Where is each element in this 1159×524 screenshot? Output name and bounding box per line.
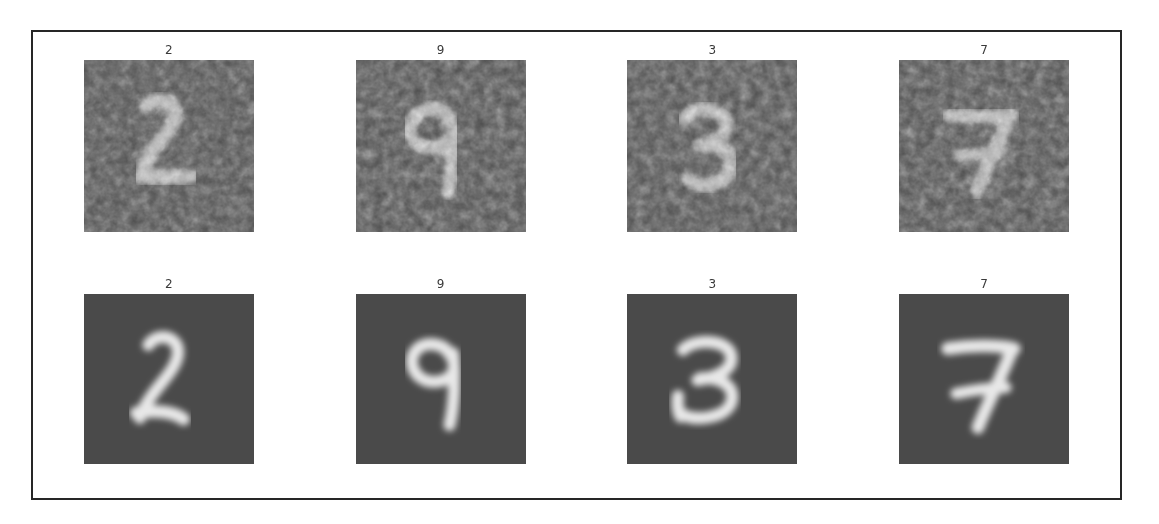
figure-panel: 2 — [31, 30, 1122, 500]
clean-digit-image-7[interactable] — [899, 294, 1069, 464]
noisy-digit-image-7[interactable] — [899, 60, 1069, 232]
noisy-digit-image-2[interactable] — [84, 60, 254, 232]
clean-row: 2 — [33, 265, 1120, 498]
clean-digit-image-2[interactable] — [84, 294, 254, 464]
cell-noisy-2[interactable]: 9 — [305, 32, 577, 232]
subplot-title: 9 — [437, 43, 445, 57]
cell-noisy-4[interactable]: 7 — [848, 32, 1120, 232]
image-grid: 2 — [33, 32, 1120, 498]
subplot-title: 7 — [980, 277, 988, 291]
subplot-title: 2 — [165, 43, 173, 57]
clean-digit-image-9[interactable] — [356, 294, 526, 464]
noisy-row: 2 — [33, 32, 1120, 265]
cell-clean-2[interactable]: 9 — [305, 265, 577, 464]
cell-clean-4[interactable]: 7 — [848, 265, 1120, 464]
cell-noisy-3[interactable]: 3 — [577, 32, 849, 232]
subplot-title: 7 — [980, 43, 988, 57]
subplot-title: 3 — [708, 277, 716, 291]
subplot-title: 3 — [708, 43, 716, 57]
noisy-digit-image-3[interactable] — [627, 60, 797, 232]
cell-clean-3[interactable]: 3 — [577, 265, 849, 464]
clean-digit-image-3[interactable] — [627, 294, 797, 464]
cell-noisy-1[interactable]: 2 — [33, 32, 305, 232]
subplot-title: 2 — [165, 277, 173, 291]
subplot-title: 9 — [437, 277, 445, 291]
cell-clean-1[interactable]: 2 — [33, 265, 305, 464]
noisy-digit-image-9[interactable] — [356, 60, 526, 232]
